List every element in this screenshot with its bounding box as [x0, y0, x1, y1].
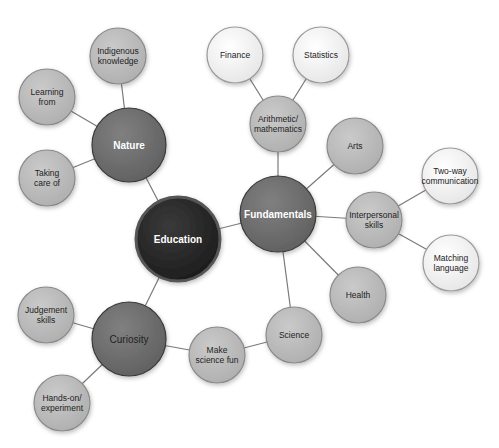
node-matching-language: Matchinglanguage — [423, 235, 479, 291]
taking-care-of-label: Taking — [35, 168, 60, 178]
education-label: Education — [154, 234, 202, 245]
node-health: Health — [330, 267, 386, 323]
judgement-skills-label: skills — [37, 315, 55, 325]
curiosity-label: Curiosity — [110, 334, 149, 345]
judgement-skills-label: Judgement — [25, 305, 68, 315]
mind-map-diagram: EducationNatureFundamentalsCuriosityIndi… — [0, 0, 499, 448]
two-way-communication-label: communication — [421, 176, 478, 186]
matching-language-label: language — [434, 263, 469, 273]
learning-from-label: Learning — [30, 87, 63, 97]
node-learning-from: Learningfrom — [19, 69, 75, 125]
node-hands-on-experiment: Hands-on/experiment — [34, 375, 90, 431]
node-two-way-communication: Two-waycommunication — [421, 148, 478, 204]
matching-language-label: Matching — [434, 253, 469, 263]
arithmetic-mathematics-label: Arithmetic/ — [258, 114, 299, 124]
arts-label: Arts — [347, 141, 362, 151]
node-interpersonal-skills: Interpersonalskills — [346, 192, 402, 248]
hands-on-experiment-label: Hands-on/ — [42, 393, 82, 403]
science-label: Science — [279, 330, 310, 340]
node-fundamentals: Fundamentals — [240, 176, 316, 252]
learning-from-label: from — [39, 97, 56, 107]
nodes: EducationNatureFundamentalsCuriosityIndi… — [18, 27, 479, 431]
finance-label: Finance — [220, 50, 251, 60]
arithmetic-mathematics-label: mathematics — [254, 124, 302, 134]
two-way-communication-label: Two-way — [433, 166, 467, 176]
make-science-fun-label: science fun — [196, 355, 239, 365]
health-label: Health — [346, 290, 371, 300]
make-science-fun-label: Make — [207, 345, 228, 355]
node-indigenous-knowledge: Indigenousknowledge — [90, 28, 146, 84]
node-science: Science — [266, 307, 322, 363]
indigenous-knowledge-label: knowledge — [98, 56, 139, 66]
nature-label: Nature — [113, 140, 145, 151]
interpersonal-skills-label: skills — [365, 220, 383, 230]
taking-care-of-label: care of — [34, 178, 61, 188]
node-taking-care-of: Takingcare of — [19, 150, 75, 206]
node-finance: Finance — [207, 27, 263, 83]
node-education: Education — [136, 197, 220, 281]
node-statistics: Statistics — [293, 27, 349, 83]
node-nature: Nature — [92, 108, 166, 182]
statistics-label: Statistics — [304, 50, 338, 60]
node-arts: Arts — [327, 118, 383, 174]
node-judgement-skills: Judgementskills — [18, 287, 74, 343]
hands-on-experiment-label: experiment — [41, 403, 84, 413]
interpersonal-skills-label: Interpersonal — [349, 210, 399, 220]
node-curiosity: Curiosity — [92, 302, 166, 376]
node-make-science-fun: Makescience fun — [189, 327, 245, 383]
node-arithmetic-mathematics: Arithmetic/mathematics — [250, 96, 306, 152]
indigenous-knowledge-label: Indigenous — [97, 46, 139, 56]
fundamentals-label: Fundamentals — [244, 209, 312, 220]
